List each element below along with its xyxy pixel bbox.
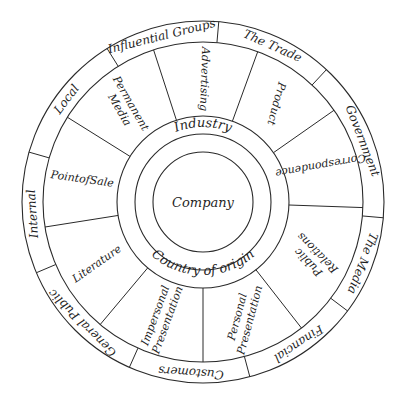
segment-label-correspondence: Correspondence	[274, 151, 367, 180]
outer-band-divider	[244, 357, 249, 377]
segment-label-line: PointofSale	[49, 168, 115, 190]
country-of-origin-label: Country of origin	[149, 246, 257, 278]
segment-label-line: Advertising	[197, 46, 212, 112]
segment-divider	[232, 52, 257, 122]
segment-divider	[100, 268, 148, 325]
segment-label-literature: Literature	[69, 242, 124, 286]
outer-band-divider	[29, 152, 49, 158]
outer-band-divider	[217, 22, 219, 43]
outer-band-divider	[362, 216, 383, 218]
industry-label-path: Industry	[171, 115, 235, 135]
stakeholder-wheel-diagram: Company Industry Country of origin Local…	[0, 0, 404, 403]
band-label-general-public: General Public	[45, 286, 119, 360]
country-of-origin-label-path: Country of origin	[149, 246, 257, 278]
segment-label-permanent-media: PermanentMedia	[98, 73, 152, 140]
segment-label-product: Product	[264, 80, 288, 127]
segment-divider	[256, 270, 302, 328]
segment-divider	[289, 205, 363, 208]
segment-label-personal-presentation: PersonalPresentation	[222, 281, 266, 357]
segment-label-line: Correspondence	[274, 151, 367, 180]
outer-band-divider	[331, 298, 348, 311]
segment-label-public-relations: PublicRelations	[285, 230, 341, 286]
segment-divider	[45, 215, 118, 227]
segment-divider	[154, 50, 177, 120]
outer-band-divider	[36, 265, 55, 273]
segment-label-pointofsale: PointofSale	[49, 168, 115, 190]
band-label-internal: Internal	[24, 189, 41, 240]
segment-label-impersonal-presentation: ImpersonalPresentation	[137, 280, 186, 357]
company-label: Company	[172, 195, 235, 210]
outer-band-divider	[312, 70, 326, 85]
segment-divider	[273, 110, 334, 152]
segment-label-line: Product	[264, 80, 288, 127]
segment-label-advertising: Advertising	[197, 46, 212, 112]
segment-label-line: Literature	[69, 242, 124, 286]
band-label-local: Local	[50, 82, 82, 118]
outer-band-divider	[129, 348, 138, 367]
industry-label: Industry	[171, 115, 235, 135]
band-label-financial: Financial	[271, 322, 326, 366]
